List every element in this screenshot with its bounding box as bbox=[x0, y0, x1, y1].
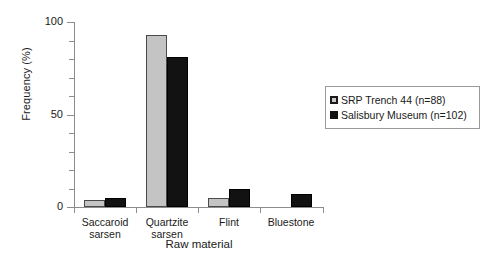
y-tick-80 bbox=[69, 59, 74, 60]
y-tick-label-0: 0 bbox=[57, 200, 63, 212]
y-tick-100: 100 bbox=[67, 22, 74, 23]
x-tick-4 bbox=[323, 208, 324, 213]
y-axis-line bbox=[74, 22, 75, 208]
legend-label-srp-trench-44: SRP Trench 44 (n=88) bbox=[341, 94, 446, 106]
x-category-label-bluestone: Bluestone bbox=[248, 216, 334, 228]
bar-saccaroid-sarsen-salisbury-museum bbox=[105, 198, 126, 207]
bar-saccaroid-sarsen-srp-trench-44 bbox=[84, 200, 105, 207]
bar-flint-srp-trench-44 bbox=[208, 198, 229, 207]
plot-area: 100 50 0 Saccaroid sarsen bbox=[74, 22, 324, 208]
y-tick-70 bbox=[69, 78, 74, 79]
bar-quartzite-sarsen-salisbury-museum bbox=[167, 57, 188, 207]
y-tick-0: 0 bbox=[67, 207, 74, 208]
chart-legend: SRP Trench 44 (n=88) Salisbury Museum (n… bbox=[325, 86, 480, 129]
legend-item-srp-trench-44: SRP Trench 44 (n=88) bbox=[330, 93, 475, 107]
bar-chart-figure: Frequency (%) 100 50 0 bbox=[0, 0, 490, 260]
x-axis-line bbox=[74, 207, 324, 208]
y-tick-label-100: 100 bbox=[45, 15, 63, 27]
legend-label-salisbury-museum: Salisbury Museum (n=102) bbox=[341, 109, 467, 121]
x-tick-0 bbox=[74, 208, 75, 213]
y-tick-50: 50 bbox=[67, 115, 74, 116]
bar-flint-salisbury-museum bbox=[229, 189, 250, 208]
y-tick-90 bbox=[69, 41, 74, 42]
y-tick-label-50: 50 bbox=[51, 108, 63, 120]
x-tick-2 bbox=[198, 208, 199, 213]
y-axis-title: Frequency (%) bbox=[20, 14, 32, 154]
bar-quartzite-sarsen-srp-trench-44 bbox=[146, 35, 167, 207]
y-tick-40 bbox=[69, 133, 74, 134]
y-tick-60 bbox=[69, 96, 74, 97]
y-tick-20 bbox=[69, 170, 74, 171]
x-tick-1 bbox=[136, 208, 137, 213]
legend-swatch-icon-salisbury-museum bbox=[330, 111, 338, 119]
x-axis-title: Raw material bbox=[74, 238, 324, 250]
x-tick-3 bbox=[260, 208, 261, 213]
bar-bluestone-salisbury-museum bbox=[291, 194, 312, 207]
x-category-label-line-1: Bluestone bbox=[248, 216, 334, 228]
legend-item-salisbury-museum: Salisbury Museum (n=102) bbox=[330, 108, 475, 122]
legend-swatch-icon-srp-trench-44 bbox=[330, 96, 338, 104]
y-tick-10 bbox=[69, 189, 74, 190]
y-tick-30 bbox=[69, 152, 74, 153]
